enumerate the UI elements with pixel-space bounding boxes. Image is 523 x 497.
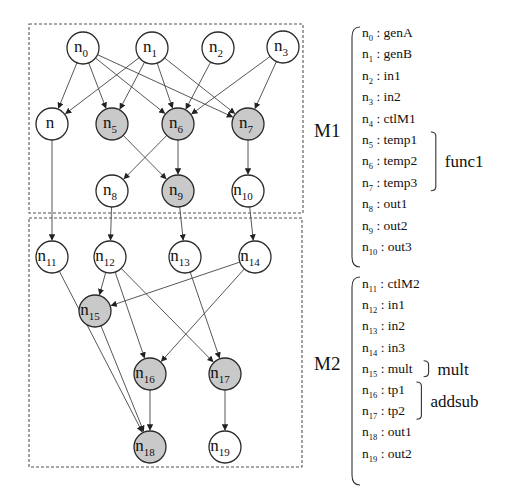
- edge-n3-to-n6: [192, 56, 270, 113]
- node-n7: n7: [232, 108, 264, 140]
- edge-n13-to-n17: [190, 272, 219, 358]
- node-n9: n9: [162, 175, 194, 207]
- node-n2: n2: [202, 32, 234, 64]
- node-n17: n17: [209, 358, 241, 390]
- node-n1: n1: [136, 32, 168, 64]
- group-bracket-func1: [431, 132, 436, 191]
- brace-m2: [352, 277, 360, 485]
- legend-entry-m1: n2 : in1: [362, 68, 401, 86]
- edge-n9-to-n13: [180, 207, 184, 240]
- edge-n1-to-n4: [66, 58, 140, 114]
- node-n12: n12: [94, 241, 126, 273]
- node-n19: n19: [209, 431, 241, 463]
- legend-entry-m2: n15 : mult: [362, 361, 413, 379]
- node-n14: n14: [239, 241, 271, 273]
- edge-n11-to-n18: [59, 271, 142, 432]
- node-n0: n0: [67, 32, 99, 64]
- group-bracket-mult: [424, 361, 429, 377]
- edge-n12-to-n16: [115, 272, 144, 358]
- legend-entry-m1: n5 : temp1: [362, 132, 417, 150]
- node-n11: n11: [36, 241, 68, 273]
- node-n3: n3: [267, 31, 299, 63]
- node-n6: n6: [162, 108, 194, 140]
- module-label-m1: M1: [314, 120, 340, 141]
- edge-n14-to-n16: [161, 269, 244, 361]
- legend-entry-m1: n4 : ctlM1: [362, 111, 416, 129]
- legend-entry-m2: n13 : in2: [362, 318, 405, 336]
- module-label-m2: M2: [314, 353, 340, 374]
- edge-n2-to-n6: [186, 62, 211, 109]
- node-n15: n15: [79, 295, 111, 327]
- edge-n0-to-n6: [95, 58, 164, 113]
- legend-entry-m1: n6 : temp2: [362, 153, 417, 171]
- legend-entry-m2: n12 : in1: [362, 297, 405, 315]
- node-n4: n: [36, 108, 68, 140]
- edge-n0-to-n4: [58, 63, 77, 108]
- node-n16: n16: [134, 358, 166, 390]
- legend-entry-m1: n1 : genB: [362, 46, 412, 64]
- edge-n1-to-n6: [157, 63, 172, 108]
- edge-n12-to-n15: [100, 272, 106, 294]
- brace-m1: [352, 27, 360, 267]
- legend-entry-m1: n9 : out2: [362, 218, 408, 236]
- dependency-graph: n0n1n2n3nn5n6n7n8n9n10n11n12n13n14n15n16…: [0, 0, 523, 497]
- nodes: n0n1n2n3nn5n6n7n8n9n10n11n12n13n14n15n16…: [36, 31, 299, 463]
- edge-n12-to-n17: [121, 268, 213, 361]
- legend-entry-m1: n3 : in2: [362, 89, 401, 107]
- legend-entry-m2: n16 : tp1: [362, 382, 405, 400]
- legend: n0 : genAn1 : genBn2 : in1n3 : in2n4 : c…: [352, 25, 484, 485]
- node-n8: n8: [96, 175, 128, 207]
- legend-entry-m2: n11 : ctlM2: [362, 276, 420, 294]
- edge-n3-to-n7: [255, 62, 276, 109]
- legend-entry-m1: n0 : genA: [362, 25, 413, 43]
- edge-n6-to-n8: [124, 135, 167, 178]
- group-bracket-addsub: [416, 382, 421, 419]
- node-n13: n13: [169, 241, 201, 273]
- group-label-mult: mult: [438, 360, 469, 379]
- legend-entry-m2: n14 : in3: [362, 340, 405, 358]
- legend-entry-m2: n18 : out1: [362, 424, 412, 442]
- group-label-func1: func1: [445, 152, 484, 171]
- node-n18: n18: [134, 431, 166, 463]
- edge-n10-to-n14: [250, 207, 254, 240]
- legend-entry-m1: n10 : out3: [362, 239, 412, 257]
- edge-n5-to-n9: [123, 135, 166, 178]
- edge-n8-to-n12: [111, 207, 112, 240]
- legend-entry-m1: n8 : out1: [362, 196, 408, 214]
- group-label-addsub: addsub: [430, 392, 478, 411]
- edge-n1-to-n7: [165, 58, 235, 114]
- legend-entry-m1: n7 : temp3: [362, 175, 417, 193]
- node-n5: n5: [96, 108, 128, 140]
- legend-entry-m2: n19 : out2: [362, 446, 412, 464]
- legend-entry-m2: n17 : tp2: [362, 403, 405, 421]
- node-label: n: [46, 113, 55, 132]
- node-n10: n10: [232, 175, 264, 207]
